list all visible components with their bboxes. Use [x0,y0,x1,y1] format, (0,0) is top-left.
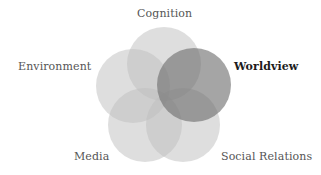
label-media: Media [74,150,109,163]
label-social-relations: Social Relations [221,150,312,163]
label-environment: Environment [18,60,91,73]
venn-diagram [0,0,321,175]
label-cognition: Cognition [137,7,192,20]
circle-worldview [157,48,231,122]
label-worldview: Worldview [234,60,298,73]
